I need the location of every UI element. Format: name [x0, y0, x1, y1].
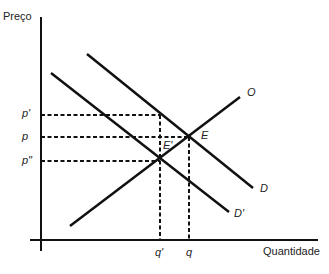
point-label-E-prime: E'	[163, 139, 172, 151]
price-label-p: p	[22, 130, 28, 142]
y-axis-label: Preço	[3, 10, 32, 22]
demand-curve-D-prime	[51, 73, 229, 212]
curve-label-O: O	[247, 86, 256, 98]
x-axis-label: Quantidade	[263, 245, 320, 257]
curve-label-D: D	[260, 182, 268, 194]
point-label-E: E	[201, 129, 208, 141]
curve-label-D-prime: D'	[234, 207, 244, 219]
price-label-p-prime: p'	[22, 107, 30, 119]
quantity-label-q: q	[186, 246, 192, 258]
supply-demand-diagram	[0, 0, 329, 274]
price-label-p-double-prime: p"	[22, 154, 32, 166]
quantity-label-q-prime: q'	[155, 246, 163, 258]
